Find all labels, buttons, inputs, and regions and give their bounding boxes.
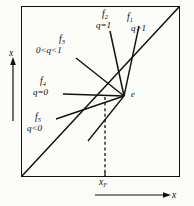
curve-condition-f5: q<0 bbox=[27, 124, 42, 133]
y-axis-label: x bbox=[9, 49, 13, 59]
curve-label-f2: f2 bbox=[102, 10, 108, 20]
curve-condition-f1: q>1 bbox=[131, 24, 146, 33]
x-tick-label-xf: xF bbox=[99, 178, 107, 188]
point-label-e: e bbox=[131, 90, 135, 99]
curve-label-f1: f1 bbox=[127, 13, 133, 23]
curve-condition-f3: 0<q<1 bbox=[36, 46, 62, 55]
x-axis-label: x bbox=[172, 191, 176, 201]
curve-condition-f2: q=1 bbox=[96, 21, 111, 30]
curve-label-f4: f4 bbox=[40, 77, 46, 87]
x-axis-arrowhead bbox=[163, 192, 171, 198]
curve-label-f3: f3 bbox=[59, 35, 65, 45]
curve-condition-f4: q=0 bbox=[33, 88, 48, 97]
curve-label-f5: f5 bbox=[35, 113, 41, 123]
figure-canvas: f1 q>1 f2 q=1 f3 0<q<1 f4 q=0 f5 q<0 e x… bbox=[0, 0, 194, 206]
